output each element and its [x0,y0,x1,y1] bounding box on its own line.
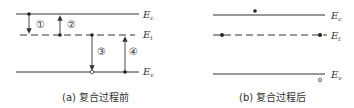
process-2-label: ② [67,19,76,30]
panel-b-diagram: Ec Et Ev [213,9,342,81]
panel-a-diagram: ① ② ③ ④ Ec Et Ev [16,9,154,78]
ec-label: Ec [142,9,154,21]
process-1-label: ① [36,19,45,30]
hole-circle [318,78,321,81]
process-3-label: ③ [97,46,106,57]
hole-circle [90,70,94,74]
et-label: Et [330,30,341,42]
electron-dot [318,33,322,37]
et-label: Et [142,29,153,41]
electron-dot [253,9,257,13]
electron-dot [220,33,224,37]
ev-label: Ev [142,66,154,78]
ec-label: Ec [330,10,342,22]
process-4-label: ④ [129,46,138,57]
caption-b: (b) 复合过程后 [239,89,306,104]
caption-a: (a) 复合过程前 [62,89,129,104]
ev-label: Ev [330,69,342,81]
